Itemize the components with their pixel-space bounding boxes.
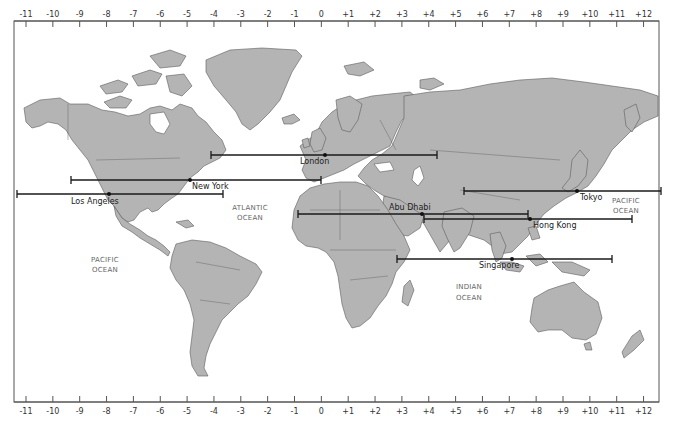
- city-dot-tokyo: [575, 189, 579, 193]
- ocean-label-indian-2: OCEAN: [456, 294, 482, 302]
- top-axis-label: -5: [183, 10, 191, 19]
- top-axis-label: -8: [103, 10, 111, 19]
- bottom-axis-label: +6: [477, 407, 489, 416]
- top-axis-label: +7: [503, 10, 515, 19]
- top-axis-label: +12: [635, 10, 652, 19]
- bottom-axis-label: +4: [423, 407, 435, 416]
- top-axis-label: -10: [46, 10, 59, 19]
- ocean-label-pacific-west-2: OCEAN: [92, 266, 118, 274]
- bottom-axis-label: -4: [210, 407, 218, 416]
- bottom-axis-label: -11: [19, 407, 32, 416]
- bottom-axis-label: +5: [450, 407, 462, 416]
- bottom-axis-label: +11: [608, 407, 625, 416]
- top-axis-label: -11: [19, 10, 32, 19]
- city-label-tokyo: Tokyo: [579, 193, 603, 202]
- top-axis-label: -4: [210, 10, 218, 19]
- bottom-axis-label: +7: [503, 407, 515, 416]
- city-label-abu-dhabi: Abu Dhabi: [389, 203, 431, 212]
- city-label-hong-kong: Hong Kong: [533, 221, 577, 230]
- bottom-axis-label: -9: [76, 407, 84, 416]
- top-axis-label: +9: [557, 10, 569, 19]
- ocean-label-pacific-west: PACIFIC: [91, 256, 119, 264]
- top-axis-label: +10: [581, 10, 598, 19]
- bottom-axis-label: +12: [635, 407, 652, 416]
- top-axis-label: +8: [530, 10, 542, 19]
- top-axis-label: -2: [264, 10, 272, 19]
- city-dot-los-angeles: [107, 192, 111, 196]
- bottom-axis-label: +3: [396, 407, 408, 416]
- bottom-axis-label: -8: [103, 407, 111, 416]
- city-label-new-york: New York: [192, 182, 229, 191]
- bottom-axis-label: -6: [156, 407, 164, 416]
- ocean-label-atlantic: ATLANTIC: [232, 204, 267, 212]
- bottom-axis-label: +8: [530, 407, 542, 416]
- bottom-axis-label: +1: [342, 407, 354, 416]
- bottom-axis-label: -2: [264, 407, 272, 416]
- top-axis-label: -3: [237, 10, 245, 19]
- top-axis-label: +1: [342, 10, 354, 19]
- ocean-label-indian: INDIAN: [456, 283, 482, 291]
- bottom-axis-label: -5: [183, 407, 191, 416]
- top-axis-label: +2: [369, 10, 381, 19]
- world-time-zone-map: -11-10-9-8-7-6-5-4-3-2-10+1+2+3+4+5+6+7+…: [0, 0, 673, 424]
- top-axis-label: -6: [156, 10, 164, 19]
- ocean-label-pacific-east-2: OCEAN: [613, 207, 639, 215]
- bottom-axis-label: -1: [291, 407, 299, 416]
- city-dot-hong-kong: [528, 217, 532, 221]
- top-axis-label: -7: [129, 10, 137, 19]
- top-axis-label: -1: [291, 10, 299, 19]
- bottom-axis-label: -7: [129, 407, 137, 416]
- ocean-label-atlantic-2: OCEAN: [237, 214, 263, 222]
- top-axis-label: +5: [450, 10, 462, 19]
- city-label-los-angeles: Los Angeles: [71, 197, 119, 206]
- bottom-axis-label: +10: [581, 407, 598, 416]
- bottom-axis-label: 0: [319, 407, 324, 416]
- top-axis-label: +3: [396, 10, 408, 19]
- top-axis-label: +6: [477, 10, 489, 19]
- ocean-label-pacific-east: PACIFIC: [612, 197, 640, 205]
- city-label-london: London: [300, 157, 329, 166]
- city-label-singapore: Singapore: [479, 261, 519, 270]
- bottom-axis-label: -10: [46, 407, 59, 416]
- bottom-axis-label: +9: [557, 407, 569, 416]
- top-axis-label: 0: [319, 10, 324, 19]
- top-axis-label: -9: [76, 10, 84, 19]
- top-axis-label: +4: [423, 10, 435, 19]
- bottom-axis-label: +2: [369, 407, 381, 416]
- bottom-axis-label: -3: [237, 407, 245, 416]
- top-axis-label: +11: [608, 10, 625, 19]
